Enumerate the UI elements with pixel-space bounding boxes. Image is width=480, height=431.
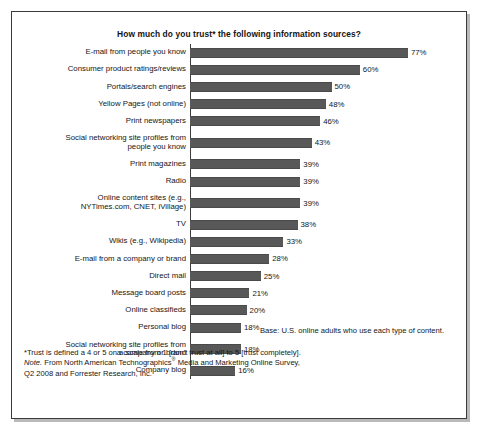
base-note: Base: U.S. online adults who use each ty… [12, 326, 444, 335]
bar-track: 77% [190, 44, 466, 61]
footnote-source-text-a: From North American Technographics [42, 358, 171, 367]
bar-track: 39% [190, 156, 466, 173]
bar [190, 116, 320, 126]
bar [190, 159, 300, 169]
bar-row: Yellow Pages (not online)48% [12, 96, 466, 113]
bar-value-label: 39% [303, 177, 319, 186]
bar-category-label: E-mail from people you know [12, 48, 190, 57]
bar-row: E-mail from people you know77% [12, 44, 466, 61]
bar [190, 237, 283, 247]
bar [190, 48, 408, 58]
bar [190, 138, 312, 148]
bar-category-label: Direct mail [12, 272, 190, 281]
bar-category-label: TV [12, 220, 190, 229]
bar-track: 38% [190, 216, 466, 233]
bar-value-label: 43% [315, 138, 331, 147]
bar-row: Social networking site profiles from peo… [12, 130, 466, 156]
bar-row: Wikis (e.g., Wikipedia)33% [12, 233, 466, 250]
bar [190, 305, 247, 315]
bar-category-label: Yellow Pages (not online) [12, 100, 190, 109]
bar-category-label: Social networking site profiles from peo… [12, 134, 190, 151]
bar-track: 43% [190, 130, 466, 156]
bar-value-label: 38% [301, 220, 317, 229]
bar-track: 21% [190, 285, 466, 302]
footnote-source-line-2: Q2 2008 and Forrester Research, Inc. [24, 369, 454, 379]
bar-row: Print newspapers46% [12, 113, 466, 130]
bar-value-label: 50% [335, 82, 351, 91]
footnote-source-text-b: Media and Marketing Online Survey, [176, 358, 300, 367]
bar-category-label: Radio [12, 177, 190, 186]
chart-figure-frame: How much do you trust* the following inf… [11, 11, 467, 419]
bar-track: 39% [190, 173, 466, 190]
bar-category-label: Portals/search engines [12, 83, 190, 92]
bar-track: 20% [190, 302, 466, 319]
bar-value-label: 25% [264, 272, 280, 281]
bar-row: TV38% [12, 216, 466, 233]
bar-track: 25% [190, 267, 466, 284]
bar [190, 254, 269, 264]
bar [190, 271, 261, 281]
chart-figure-inner: How much do you trust* the following inf… [12, 12, 466, 418]
bar-row: Print magazines39% [12, 156, 466, 173]
bar-value-label: 39% [303, 160, 319, 169]
bar [190, 177, 300, 187]
bar-track: 33% [190, 233, 466, 250]
bar-category-label: Online content sites (e.g., NYTimes.com,… [12, 194, 190, 211]
bar [190, 198, 300, 208]
bar [190, 220, 298, 230]
bar-value-label: 77% [411, 48, 427, 57]
bar-track: 50% [190, 78, 466, 95]
bar [190, 82, 332, 92]
bar-category-label: Wikis (e.g., Wikipedia) [12, 237, 190, 246]
bar-row: Radio39% [12, 173, 466, 190]
bar-value-label: 48% [329, 100, 345, 109]
bar-track: 60% [190, 61, 466, 78]
bar-value-label: 33% [286, 237, 302, 246]
bar-row: Online classifieds20% [12, 302, 466, 319]
bar-row: Direct mail25% [12, 267, 466, 284]
bar-category-label: Online classifieds [12, 306, 190, 315]
bar-value-label: 21% [252, 289, 268, 298]
chart-plot-area: E-mail from people you know77%Consumer p… [12, 44, 466, 314]
bar-value-label: 46% [323, 117, 339, 126]
footnote-source-label: Note. [24, 358, 42, 367]
bar-row: Portals/search engines50% [12, 78, 466, 95]
bar-row: Message board posts21% [12, 285, 466, 302]
bar-track: 46% [190, 113, 466, 130]
bar-value-label: 39% [303, 199, 319, 208]
bar-category-label: E-mail from a company or brand [12, 255, 190, 264]
bar-category-label: Consumer product ratings/reviews [12, 65, 190, 74]
bar-value-label: 20% [250, 306, 266, 315]
bar-track: 39% [190, 190, 466, 216]
footnote-trust-definition: *Trust is defined a 4 or 5 on a scale fr… [24, 348, 454, 358]
bar-track: 48% [190, 96, 466, 113]
bar [190, 65, 360, 75]
bar-row: Consumer product ratings/reviews60% [12, 61, 466, 78]
footnotes-block: *Trust is defined a 4 or 5 on a scale fr… [24, 348, 454, 379]
bar [190, 99, 326, 109]
bar-row: Online content sites (e.g., NYTimes.com,… [12, 190, 466, 216]
bar-track: 28% [190, 250, 466, 267]
bar-row: E-mail from a company or brand28% [12, 250, 466, 267]
bar-category-label: Print newspapers [12, 117, 190, 126]
bar-category-label: Message board posts [12, 289, 190, 298]
bar [190, 288, 249, 298]
bar-value-label: 28% [272, 254, 288, 263]
bar-value-label: 60% [363, 65, 379, 74]
bar-category-label: Print magazines [12, 160, 190, 169]
footnote-source-line-1: Note. From North American Technographics… [24, 358, 454, 368]
chart-title: How much do you trust* the following inf… [12, 29, 466, 39]
